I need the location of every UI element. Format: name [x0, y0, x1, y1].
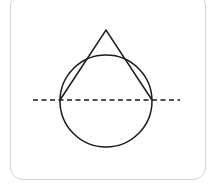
triangle-upper-point — [60, 30, 152, 100]
screenshot-canvas — [0, 0, 216, 192]
teardrop-with-axis-diagram — [0, 0, 216, 192]
diagram-svg — [0, 0, 216, 192]
circle-lower-lobe — [60, 55, 152, 147]
